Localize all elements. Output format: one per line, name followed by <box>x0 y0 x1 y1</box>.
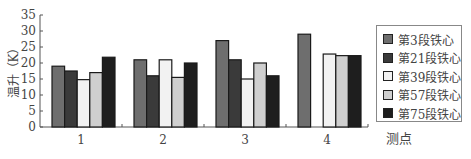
legend-swatch-icon <box>383 71 393 81</box>
x-tick-label: 2 <box>159 133 167 147</box>
legend-label: 第39段铁心 <box>398 68 461 85</box>
x-tick-label: 1 <box>77 133 85 147</box>
legend-swatch-icon <box>383 53 393 63</box>
bar <box>254 63 267 127</box>
bar <box>147 76 160 127</box>
bar <box>77 80 90 127</box>
x-axis-label: 测点 <box>386 128 412 147</box>
bar <box>134 60 147 127</box>
legend-swatch-icon <box>383 90 393 100</box>
y-tick-label: 25 <box>21 40 36 54</box>
bar <box>90 73 103 127</box>
y-tick-label: 10 <box>21 88 36 102</box>
bar <box>172 77 185 127</box>
bars <box>52 34 361 127</box>
bar <box>52 66 65 127</box>
legend-swatch-icon <box>383 108 393 118</box>
legend-label: 第75段铁心 <box>398 105 461 122</box>
y-axis: 05101520253035 <box>21 8 43 134</box>
legend-label: 第3段铁心 <box>398 31 454 48</box>
bar <box>216 41 229 127</box>
y-tick-label: 5 <box>28 104 36 118</box>
x-tick-label: 4 <box>323 133 331 147</box>
y-tick-label: 35 <box>21 8 36 22</box>
legend-item: 第3段铁心 <box>383 31 454 47</box>
y-tick-label: 0 <box>28 120 36 134</box>
y-axis-label: 温升（K） <box>7 42 21 99</box>
bar <box>65 71 78 127</box>
legend-item: 第57段铁心 <box>383 87 461 103</box>
legend-item: 第39段铁心 <box>383 68 461 84</box>
bar <box>241 79 254 127</box>
bar <box>229 60 242 127</box>
y-tick-label: 20 <box>21 56 36 70</box>
y-tick-label: 15 <box>21 72 36 86</box>
bar <box>266 76 279 127</box>
bar <box>184 63 197 127</box>
legend-label: 第57段铁心 <box>398 86 461 103</box>
legend: 第3段铁心第21段铁心第39段铁心第57段铁心第75段铁心 <box>376 25 462 122</box>
bar <box>298 34 311 127</box>
bar <box>323 54 336 127</box>
bar <box>336 56 349 127</box>
bar <box>102 57 115 127</box>
x-tick-label: 3 <box>241 133 249 147</box>
legend-label: 第21段铁心 <box>398 49 461 66</box>
bar <box>348 56 361 127</box>
legend-item: 第21段铁心 <box>383 50 461 66</box>
y-tick-label: 30 <box>21 24 36 38</box>
legend-item: 第75段铁心 <box>383 105 461 121</box>
bar <box>159 60 172 127</box>
legend-swatch-icon <box>383 34 393 44</box>
